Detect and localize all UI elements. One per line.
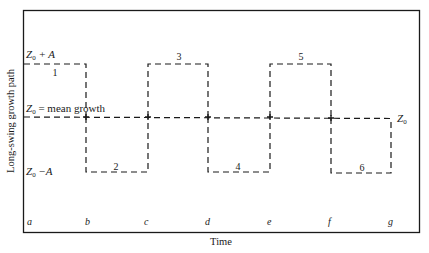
end-z0-label: Z0: [397, 112, 407, 126]
time-point-d: d: [205, 216, 211, 227]
long-swing-diagram: Z0 + A Z0 = mean growth Z0 −A Z0 1 2 3 4…: [0, 0, 429, 253]
x-axis-label: Time: [210, 236, 232, 247]
time-point-g: g: [388, 216, 393, 227]
phase-3-segment: [148, 64, 208, 117]
y-axis-label: Long-swing growth path: [5, 68, 16, 173]
phase-1-number: 1: [53, 67, 58, 78]
mean-level-label: Z0 = mean growth: [26, 102, 106, 116]
lower-level-label: Z0 −A: [26, 165, 53, 179]
crossing-markers: [83, 114, 334, 121]
phase-5-segment: [270, 64, 331, 118]
upper-level-label: Z0 + A: [26, 48, 55, 62]
time-point-f: f: [328, 216, 332, 227]
time-point-b: b: [85, 216, 90, 227]
phase-4-number: 4: [236, 161, 241, 172]
plot-frame: [24, 11, 420, 233]
phase-6-number: 6: [360, 162, 365, 173]
phase-2-number: 2: [114, 161, 119, 172]
phase-5-number: 5: [299, 51, 304, 62]
time-point-e: e: [267, 216, 272, 227]
time-point-a: a: [27, 216, 32, 227]
phase-3-number: 3: [177, 51, 182, 62]
time-point-c: c: [144, 216, 149, 227]
